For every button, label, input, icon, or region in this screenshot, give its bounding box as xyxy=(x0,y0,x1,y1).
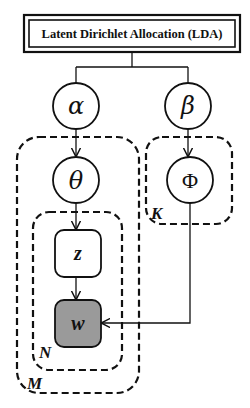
plate-k-label: K xyxy=(150,204,164,223)
node-w: w xyxy=(55,300,101,347)
title-connector xyxy=(76,52,188,84)
node-z: z xyxy=(55,230,101,277)
alpha-symbol: α xyxy=(68,92,84,120)
edges xyxy=(76,129,190,323)
lda-diagram: Latent Dirichlet Allocation (LDA) M N K … xyxy=(0,0,250,408)
title-box: Latent Dirichlet Allocation (LDA) xyxy=(24,15,240,52)
plate-n-label: N xyxy=(38,343,52,362)
beta-symbol: β xyxy=(180,92,195,120)
node-theta: θ xyxy=(53,157,99,203)
node-beta: β xyxy=(165,83,211,129)
edge-phi-w xyxy=(102,203,190,323)
z-symbol: z xyxy=(73,242,82,264)
w-symbol: w xyxy=(71,312,85,334)
plate-m-label: M xyxy=(26,374,43,393)
title-label: Latent Dirichlet Allocation (LDA) xyxy=(42,27,223,41)
node-alpha: α xyxy=(53,83,99,129)
theta-symbol: θ xyxy=(69,167,84,195)
node-phi: Φ xyxy=(167,157,213,203)
phi-symbol: Φ xyxy=(182,168,198,193)
